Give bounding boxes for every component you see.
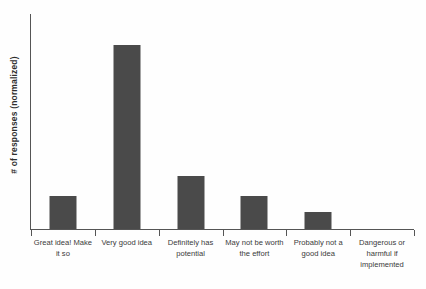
bar [113,45,140,229]
bar [49,196,76,229]
bar-slot [95,14,159,229]
x-axis-tick [286,230,287,236]
x-axis-category-label: Great idea! Make it so [31,238,95,260]
bar-slot [159,14,223,229]
x-axis-tick [159,230,160,236]
bar-chart-figure: # of responses (normalized) Great idea! … [0,0,426,289]
x-axis-category-label: Very good idea [95,238,159,249]
bar-slot [223,14,287,229]
x-axis-category-label: Probably not a good idea [286,238,350,260]
x-axis-category-label: Dangerous or harmful if implemented [350,238,414,270]
bar [177,176,204,229]
bar-slot [31,14,95,229]
bar [241,196,268,229]
bar [305,212,332,229]
x-axis-labels: Great idea! Make it soVery good ideaDefi… [31,238,414,286]
x-axis-category-label: Definitely has potential [159,238,223,260]
y-axis-label: # of responses (normalized) [0,0,28,229]
y-axis-label-text: # of responses (normalized) [9,56,19,173]
x-axis-category-label: May not be worth the effort [223,238,287,260]
bar-slot [350,14,414,229]
x-axis-tick [414,230,415,236]
x-axis-tick [350,230,351,236]
x-axis-tick [223,230,224,236]
bar-slot [286,14,350,229]
plot-area [31,14,414,229]
x-axis-tick [31,230,32,236]
x-axis-tick [95,230,96,236]
